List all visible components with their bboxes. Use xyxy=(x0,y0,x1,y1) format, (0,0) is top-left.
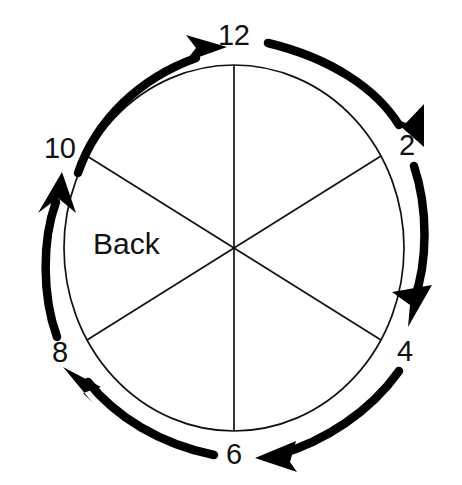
arrow-4-to-6 xyxy=(255,371,399,472)
arrow-6-to-8 xyxy=(63,367,214,455)
clock-label-10: 10 xyxy=(44,134,76,163)
clock-label-2: 2 xyxy=(399,131,415,160)
arrow-10-to-12 xyxy=(78,35,227,173)
clock-label-8: 8 xyxy=(52,338,68,367)
region-label-back: Back xyxy=(93,229,160,259)
clock-label-4: 4 xyxy=(397,337,413,366)
arrow-2-to-4 xyxy=(392,166,432,327)
clock-label-6: 6 xyxy=(226,440,242,469)
clock-label-12: 12 xyxy=(218,21,250,50)
arrow-8-to-10 xyxy=(38,172,76,337)
clock-diagram-canvas xyxy=(0,0,462,485)
clock-diagram: 12 2 4 6 8 10 Back xyxy=(0,0,462,485)
